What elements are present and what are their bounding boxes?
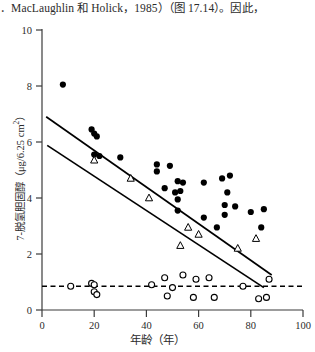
data-point-filled-circle xyxy=(60,82,66,88)
data-point-filled-circle xyxy=(201,215,207,221)
x-tick-40: 40 xyxy=(141,320,152,331)
data-point-open-circle xyxy=(170,285,176,291)
data-markers-layer xyxy=(60,82,272,302)
data-point-filled-circle xyxy=(117,154,123,160)
data-point-filled-circle xyxy=(175,196,181,202)
x-axis-tick-labels: 0 20 40 60 80 100 xyxy=(39,320,311,331)
data-point-open-triangle xyxy=(185,224,192,231)
data-point-open-triangle xyxy=(145,194,152,201)
data-point-filled-circle xyxy=(201,180,207,186)
data-point-filled-circle xyxy=(180,180,186,186)
y-axis-title-tail: ） xyxy=(15,111,26,121)
data-point-open-circle xyxy=(180,272,186,278)
data-point-open-circle xyxy=(162,275,168,281)
y-tick-6: 6 xyxy=(27,137,32,148)
data-point-open-triangle xyxy=(252,235,259,242)
data-point-filled-circle xyxy=(154,161,160,167)
y-axis-ticks xyxy=(36,30,42,310)
data-point-open-circle xyxy=(164,293,170,299)
data-point-filled-circle xyxy=(214,224,220,230)
data-point-filled-circle xyxy=(175,178,181,184)
data-point-filled-circle xyxy=(94,133,100,139)
data-point-filled-circle xyxy=(219,175,225,181)
data-point-open-circle xyxy=(91,282,97,288)
y-axis-title: 7-脱氢胆固醇（μg/6.25 cm2） xyxy=(11,76,27,276)
data-point-open-circle xyxy=(149,282,155,288)
y-axis-title-main: 7-脱氢胆固醇（μg/6.25 cm xyxy=(15,124,26,240)
plot-canvas: 0 2 4 6 8 10 0 20 40 60 80 xyxy=(0,18,315,352)
figure-page: ．MacLaughlin 和 Holick，1985）（图 17.14）。因此， xyxy=(0,0,315,352)
data-point-filled-circle xyxy=(227,173,233,179)
data-point-open-triangle xyxy=(177,242,184,249)
data-point-filled-circle xyxy=(222,202,228,208)
data-point-filled-circle xyxy=(232,203,238,209)
data-point-filled-circle xyxy=(162,185,168,191)
y-tick-10: 10 xyxy=(22,25,33,36)
data-point-open-triangle xyxy=(195,231,202,238)
data-point-open-circle xyxy=(256,296,262,302)
regression-lines-layer xyxy=(42,117,303,288)
series-filled-circle xyxy=(60,82,267,231)
data-point-filled-circle xyxy=(177,188,183,194)
axis-lines xyxy=(42,29,303,310)
data-point-filled-circle xyxy=(96,153,102,159)
y-tick-4: 4 xyxy=(27,193,33,204)
data-point-filled-circle xyxy=(172,189,178,195)
data-point-filled-circle xyxy=(224,189,230,195)
data-point-filled-circle xyxy=(261,206,267,212)
data-point-filled-circle xyxy=(167,163,173,169)
data-point-filled-circle xyxy=(175,208,181,214)
data-point-filled-circle xyxy=(248,209,254,215)
x-axis-title: 年龄（年） xyxy=(0,331,315,347)
data-point-open-circle xyxy=(240,283,246,289)
data-point-open-triangle xyxy=(234,245,241,252)
data-point-open-circle xyxy=(211,294,217,300)
y-tick-2: 2 xyxy=(27,249,32,260)
data-point-open-circle xyxy=(190,294,196,300)
y-tick-0: 0 xyxy=(27,305,32,316)
data-point-filled-circle xyxy=(154,168,160,174)
data-point-open-circle xyxy=(193,276,199,282)
series-open-circle xyxy=(68,272,272,302)
data-point-open-circle xyxy=(266,276,272,282)
data-point-open-circle xyxy=(68,283,74,289)
y-tick-8: 8 xyxy=(27,81,32,92)
scatter-figure: 0 2 4 6 8 10 0 20 40 60 80 xyxy=(0,18,315,352)
x-tick-20: 20 xyxy=(89,320,100,331)
data-point-filled-circle xyxy=(258,224,264,230)
data-point-filled-circle xyxy=(222,212,228,218)
x-tick-60: 60 xyxy=(193,320,204,331)
data-point-open-circle xyxy=(94,292,100,298)
x-axis-ticks xyxy=(42,310,303,317)
x-tick-80: 80 xyxy=(246,320,257,331)
x-tick-100: 100 xyxy=(295,320,311,331)
data-point-open-circle xyxy=(206,275,212,281)
y-axis-title-superscript: 2 xyxy=(12,121,21,125)
data-point-open-circle xyxy=(263,294,269,300)
x-tick-0: 0 xyxy=(39,320,44,331)
body-paragraph-text: ．MacLaughlin 和 Holick，1985）（图 17.14）。因此， xyxy=(0,1,315,15)
